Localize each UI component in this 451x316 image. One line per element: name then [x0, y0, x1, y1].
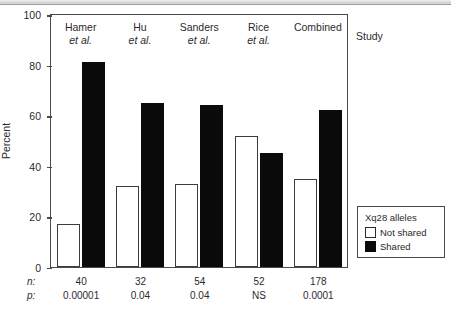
group-label-rice: Riceet al.: [229, 21, 288, 47]
group-label-etal: et al.: [110, 34, 169, 47]
stats-row-p: p: 0.000010.040.04NS0.0001: [0, 290, 451, 305]
stats-p-combined: 0.0001: [303, 290, 334, 301]
y-tick-label-40: 40: [29, 161, 41, 173]
group-label-combined: Combined: [288, 21, 347, 34]
legend-item-not-shared[interactable]: Not shared: [365, 227, 438, 238]
bar-not-shared-combined: [294, 179, 317, 267]
legend-label-not-shared: Not shared: [380, 227, 426, 238]
stats-p-sanders: 0.04: [190, 290, 209, 301]
stats-n-combined: 178: [310, 276, 327, 287]
stats-n-hamer: 40: [76, 276, 87, 287]
bar-shared-combined: [319, 110, 342, 267]
y-axis-title: Percent: [0, 123, 12, 159]
stats-p-rice: NS: [252, 290, 266, 301]
plot-area: [51, 15, 347, 267]
y-tick-label-20: 20: [29, 211, 41, 223]
bar-not-shared-hamer: [57, 224, 80, 267]
group-label-sanders: Sanderset al.: [170, 21, 229, 47]
group-label-etal: et al.: [229, 34, 288, 47]
legend-label-shared: Shared: [380, 241, 411, 252]
stats-key-p: p:: [27, 290, 35, 301]
stats-n-sanders: 54: [194, 276, 205, 287]
bar-shared-hu: [141, 103, 164, 267]
stats-row-n: n: 40325452178: [0, 276, 451, 291]
group-label-hu: Huet al.: [110, 21, 169, 47]
group-label-etal: et al.: [170, 34, 229, 47]
group-label-name: Hu: [133, 21, 146, 33]
group-label-name: Hamer: [65, 21, 97, 33]
y-tick-label-100: 100: [23, 9, 41, 21]
group-label-name: Combined: [294, 21, 342, 33]
bar-not-shared-hu: [116, 186, 139, 267]
bar-not-shared-sanders: [175, 184, 198, 267]
legend: Xq28 alleles Not shared Shared: [357, 206, 445, 258]
y-tick-label-80: 80: [29, 60, 41, 72]
stats-annotations: n: 40325452178 p: 0.000010.040.04NS0.000…: [0, 276, 451, 310]
group-label-etal: et al.: [51, 34, 110, 47]
bar-shared-rice: [260, 153, 283, 267]
bar-shared-sanders: [200, 105, 223, 267]
group-label-hamer: Hameret al.: [51, 21, 110, 47]
y-tick-label-60: 60: [29, 110, 41, 122]
x-axis-title: Study: [356, 30, 383, 42]
bar-shared-hamer: [82, 62, 105, 267]
stats-n-rice: 52: [253, 276, 264, 287]
y-tick-label-0: 0: [35, 262, 41, 274]
bar-not-shared-rice: [235, 136, 258, 267]
stats-p-hu: 0.04: [131, 290, 150, 301]
stats-key-n: n:: [27, 276, 35, 287]
legend-swatch-not-shared-icon: [365, 227, 376, 238]
legend-item-shared[interactable]: Shared: [365, 241, 438, 252]
group-label-name: Rice: [248, 21, 269, 33]
bar-chart-figure: Percent Study 100 80 60 40 20 0 Hame: [0, 0, 451, 316]
stats-p-hamer: 0.00001: [63, 290, 99, 301]
plot-frame: 100 80 60 40 20 0 Hameret al.Huet al.San…: [50, 14, 348, 268]
legend-swatch-shared-icon: [365, 241, 376, 252]
group-label-name: Sanders: [180, 21, 219, 33]
legend-title: Xq28 alleles: [365, 212, 438, 223]
y-tick-0: 0: [47, 268, 52, 270]
stats-n-hu: 32: [135, 276, 146, 287]
